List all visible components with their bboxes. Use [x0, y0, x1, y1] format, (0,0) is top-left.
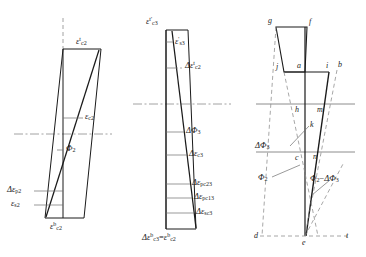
- panel3-point-n: n: [313, 152, 317, 161]
- panel3-point-g: g: [268, 16, 272, 25]
- panel3-dash-g-d: [262, 27, 276, 236]
- panel1-geometry: [14, 18, 112, 218]
- panel3-leader-phi2: [272, 165, 300, 177]
- panel3-point-j: j: [276, 62, 278, 71]
- panel2-delta-top-label: Δεtc2: [185, 60, 201, 70]
- panel2-delta-pc23-label: Δεpc23: [192, 178, 212, 187]
- panel2-eps-s3-label: ε's3: [175, 36, 185, 46]
- panel3-delta-phi3-label: ΔΦ3: [255, 141, 269, 150]
- panel3-geometry: [256, 27, 355, 236]
- panel3-point-t: t: [346, 231, 348, 240]
- panel3-point-m: m: [317, 105, 323, 114]
- panel3-point-b: b: [338, 60, 342, 69]
- panel3-phi2-label: Φ2: [258, 173, 267, 182]
- panel1-curvature-label: Φ2: [66, 144, 75, 153]
- panel3-point-i: i: [326, 61, 328, 70]
- panel1-top-strain-label: εtc2: [76, 36, 87, 46]
- panel3-point-e: e: [302, 238, 306, 247]
- panel1-eps-s-label: εs2: [11, 199, 20, 208]
- panel1-delta-p-label: Δεp2: [7, 185, 21, 194]
- panel1-mid-strain-label: εc2: [85, 112, 94, 121]
- panel2-geometry: [133, 30, 231, 229]
- panel3-point-c: c: [295, 153, 299, 162]
- panel3-leader-delta-phi3: [290, 126, 309, 146]
- panel3-point-a: a: [297, 61, 301, 70]
- strain-diagram-figure: εtc2 εc2 Φ2 Δεp2 εs2 εbc2 εt'c3 ε's3 Δεt…: [0, 0, 366, 257]
- panel2-top-strain-label: εt'c3: [146, 16, 158, 26]
- panel2-delta-sc3-label: Δεsc3: [196, 207, 212, 216]
- panel3-line-i-e: [306, 72, 329, 236]
- panel2-delta-c3-label: Δεc3: [189, 149, 203, 158]
- panel3-phi2-minus-dphi3-label: Φ2−ΔΦ3: [310, 174, 339, 183]
- panel2-delta-pc13-label: Δεpc13: [194, 192, 214, 201]
- panel3-dash-b-e: [305, 70, 337, 236]
- panel3-point-h: h: [295, 105, 299, 114]
- panel3-top-trapezoid: [276, 27, 307, 72]
- panel2-delta-phi-label: ΔΦ3: [186, 126, 200, 135]
- panel2-bottom-equation-label: Δεbc3=εbc2: [142, 232, 176, 242]
- panel3-point-f: f: [309, 17, 311, 26]
- panel1-bottom-strain-label: εbc2: [50, 221, 62, 231]
- panel3-point-d: d: [254, 231, 258, 240]
- panel3-point-k: k: [310, 120, 314, 129]
